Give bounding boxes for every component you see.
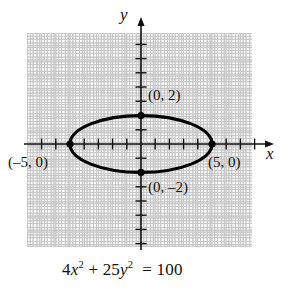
equation-caption: 4x2 + 25y2= 100 [62,261,183,278]
x-axis [24,140,274,147]
y-axis-label: y [120,6,128,23]
vertex-dot-top [137,112,144,119]
ellipse-figure: y x (0, 2) (0, –2) (–5, 0) (5, 0) 4x2 + … [0,0,284,291]
equation-exponent-x: 2 [78,259,83,270]
vertex-dot-bottom [137,169,144,176]
equation-constant: 100 [157,260,183,279]
point-label-right: (5, 0) [208,155,241,170]
point-label-top: (0, 2) [148,88,181,103]
equation-coefficient-x: 4 [62,260,71,279]
x-axis-label: x [266,145,274,162]
point-label-left: (–5, 0) [8,155,48,170]
equation-operator: + [88,260,98,279]
point-label-bottom: (0, –2) [148,180,188,195]
equation-equals: = [142,260,152,279]
equation-exponent-y: 2 [128,259,133,270]
equation-var-y: y [120,260,128,279]
equation-coefficient-y: 25 [103,260,120,279]
vertex-dot-left [66,140,73,147]
vertex-dot-right [208,140,215,147]
coordinate-plot [0,0,284,291]
